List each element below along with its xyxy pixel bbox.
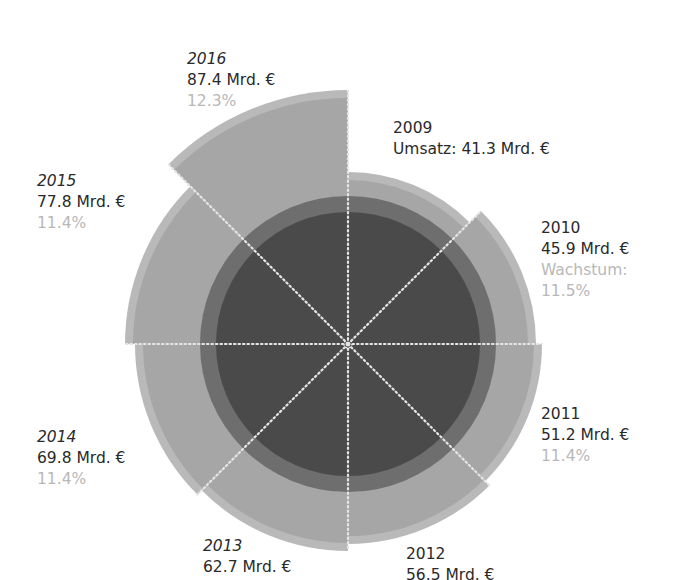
year-text: 2009 [393,118,550,139]
revenue-text: 45.9 Mrd. € [541,239,629,260]
revenue-text: 62.7 Mrd. € [203,557,291,578]
label-2015: 2015 77.8 Mrd. € 11.4% [37,171,125,234]
year-text: 2011 [541,404,629,425]
year-text: 2015 [37,171,125,192]
revenue-text: 69.8 Mrd. € [37,448,125,469]
label-2016: 2016 87.4 Mrd. € 12.3% [187,49,275,112]
label-2012: 2012 56.5 Mrd. € [406,544,494,580]
revenue-text: 56.5 Mrd. € [406,565,494,580]
revenue-text: 87.4 Mrd. € [187,70,275,91]
label-2013: 2013 62.7 Mrd. € [203,536,291,578]
growth-text: 11.4% [37,213,125,234]
label-2014: 2014 69.8 Mrd. € 11.4% [37,427,125,490]
year-text: 2014 [37,427,125,448]
year-text: 2012 [406,544,494,565]
label-2010: 2010 45.9 Mrd. € Wachstum: 11.5% [541,218,629,302]
growth-text: 11.4% [37,469,125,490]
label-2009: 2009 Umsatz: 41.3 Mrd. € [393,118,550,160]
year-text: 2016 [187,49,275,70]
revenue-text: Umsatz: 41.3 Mrd. € [393,139,550,160]
revenue-text: 51.2 Mrd. € [541,425,629,446]
year-text: 2010 [541,218,629,239]
growth-text: 11.5% [541,281,629,302]
growth-text: 11.4% [541,446,629,467]
label-2011: 2011 51.2 Mrd. € 11.4% [541,404,629,467]
year-text: 2013 [203,536,291,557]
growth-label: Wachstum: [541,260,629,281]
growth-text: 12.3% [187,91,275,112]
revenue-text: 77.8 Mrd. € [37,192,125,213]
